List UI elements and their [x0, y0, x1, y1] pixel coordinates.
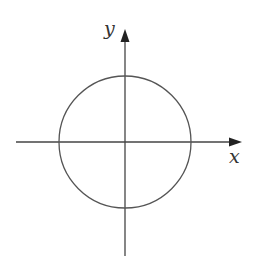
y-axis-label: y — [103, 17, 115, 39]
circle-diagram: y x — [0, 0, 256, 262]
y-axis-arrowhead-icon — [121, 29, 130, 42]
x-axis-label: x — [229, 145, 240, 167]
